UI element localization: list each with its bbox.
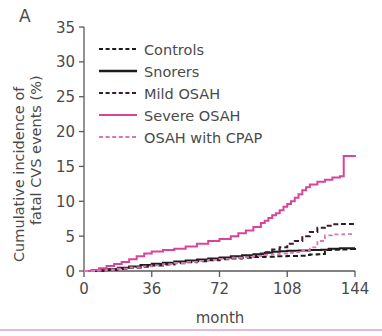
y-tick-label-30: 30 bbox=[56, 53, 75, 71]
legend-label-snorers: Snorers bbox=[144, 64, 199, 80]
y-axis-ticks: 05101520253035 bbox=[56, 19, 84, 281]
y-tick-label-20: 20 bbox=[56, 123, 75, 141]
y-tick-label-10: 10 bbox=[56, 193, 75, 211]
chart-legend: ControlsSnorersMild OSAHSevere OSAHOSAH … bbox=[99, 42, 263, 146]
x-tick-label-72: 72 bbox=[210, 280, 229, 298]
y-axis-title-line-2: fatal CVS events (%) bbox=[28, 75, 44, 225]
cumulative-incidence-chart: 05101520253035 03672108144 Cumulative in… bbox=[0, 0, 382, 336]
legend-label-severe-osah: Severe OSAH bbox=[144, 108, 241, 124]
x-axis-ticks: 03672108144 bbox=[79, 271, 369, 298]
y-axis-title-line-1: Cumulative incidence of bbox=[11, 86, 27, 262]
legend-label-controls: Controls bbox=[144, 42, 204, 58]
y-tick-label-35: 35 bbox=[56, 19, 75, 37]
x-tick-label-36: 36 bbox=[142, 280, 161, 298]
legend-label-osah-with-cpap: OSAH with CPAP bbox=[144, 130, 263, 146]
y-tick-label-0: 0 bbox=[65, 263, 75, 281]
series-group bbox=[84, 155, 355, 271]
x-tick-label-144: 144 bbox=[341, 280, 370, 298]
figure-panel-a: A 05101520253035 03672108144 Cumulative … bbox=[0, 0, 382, 336]
x-tick-label-108: 108 bbox=[273, 280, 302, 298]
panel-label: A bbox=[19, 6, 31, 26]
y-axis-title: Cumulative incidence of fatal CVS events… bbox=[11, 75, 44, 262]
x-tick-label-0: 0 bbox=[79, 280, 89, 298]
legend-label-mild-osah: Mild OSAH bbox=[144, 86, 220, 102]
x-axis-title: month bbox=[196, 309, 245, 327]
y-tick-label-15: 15 bbox=[56, 158, 75, 176]
y-tick-label-5: 5 bbox=[65, 228, 75, 246]
series-line-severe-osah bbox=[84, 155, 355, 271]
axes: 05101520253035 03672108144 bbox=[56, 19, 369, 299]
bottom-divider-rule bbox=[0, 329, 382, 331]
y-tick-label-25: 25 bbox=[56, 88, 75, 106]
